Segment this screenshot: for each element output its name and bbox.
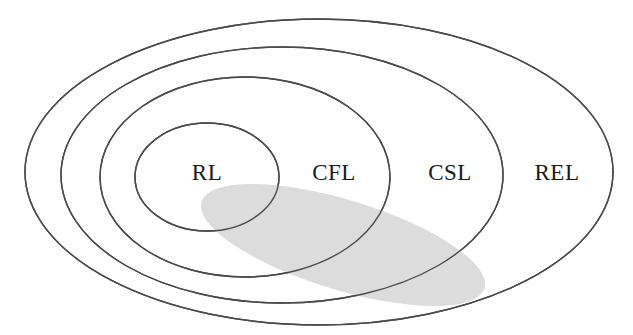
label-cfl: CFL	[312, 160, 356, 185]
label-csl: CSL	[428, 160, 472, 185]
label-rl: RL	[192, 160, 222, 185]
venn-diagram-container: RL CFL CSL REL	[0, 0, 633, 335]
label-rel: REL	[535, 160, 580, 185]
chomsky-hierarchy-diagram: RL CFL CSL REL	[0, 0, 633, 335]
